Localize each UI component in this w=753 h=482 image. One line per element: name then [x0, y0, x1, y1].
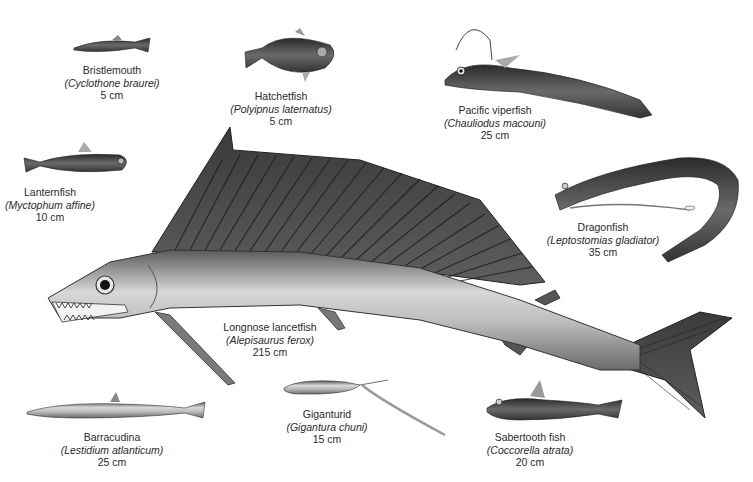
- common-name: Pacific viperfish: [444, 104, 546, 117]
- label-giganturid: Giganturid (Gigantura chuni) 15 cm: [286, 408, 367, 446]
- common-name: Giganturid: [286, 408, 367, 421]
- scientific-name: (Myctophum affine): [5, 199, 95, 212]
- common-name: Longnose lancetfish: [223, 321, 316, 334]
- bristlemouth-drawing: [74, 35, 150, 52]
- common-name: Hatchetfish: [230, 90, 332, 103]
- lanternfish-drawing: [24, 142, 127, 172]
- common-name: Dragonfish: [547, 221, 660, 234]
- common-name: Bristlemouth: [64, 64, 159, 77]
- size-label: 35 cm: [547, 246, 660, 259]
- label-dragonfish: Dragonfish (Leptostomias gladiator) 35 c…: [547, 221, 660, 259]
- size-label: 215 cm: [223, 346, 316, 359]
- scientific-name: (Chauliodus macouni): [444, 117, 546, 130]
- scientific-name: (Lestidium atlanticum): [61, 444, 164, 457]
- sabertooth-fish-drawing: [487, 380, 622, 420]
- size-label: 10 cm: [5, 211, 95, 224]
- common-name: Sabertooth fish: [487, 431, 573, 444]
- scientific-name: (Alepisaurus ferox): [223, 334, 316, 347]
- label-lanternfish: Lanternfish (Myctophum affine) 10 cm: [5, 186, 95, 224]
- label-pacific-viperfish: Pacific viperfish (Chauliodus macouni) 2…: [444, 104, 546, 142]
- size-label: 5 cm: [230, 115, 332, 128]
- label-sabertooth-fish: Sabertooth fish (Coccorella atrata) 20 c…: [487, 431, 573, 469]
- scientific-name: (Leptostomias gladiator): [547, 234, 660, 247]
- size-label: 25 cm: [61, 456, 164, 469]
- label-longnose-lancetfish: Longnose lancetfish (Alepisaurus ferox) …: [223, 321, 316, 359]
- size-label: 20 cm: [487, 456, 573, 469]
- scientific-name: (Gigantura chuni): [286, 421, 367, 434]
- scientific-name: (Polyipnus laternatus): [230, 103, 332, 116]
- label-hatchetfish: Hatchetfish (Polyipnus laternatus) 5 cm: [230, 90, 332, 128]
- scientific-name: (Cyclothone braurei): [64, 77, 159, 90]
- common-name: Barracudina: [61, 431, 164, 444]
- scientific-name: (Coccorella atrata): [487, 444, 573, 457]
- common-name: Lanternfish: [5, 186, 95, 199]
- size-label: 25 cm: [444, 129, 546, 142]
- barracudina-drawing: [27, 392, 205, 418]
- label-barracudina: Barracudina (Lestidium atlanticum) 25 cm: [61, 431, 164, 469]
- size-label: 15 cm: [286, 433, 367, 446]
- size-label: 5 cm: [64, 89, 159, 102]
- hatchetfish-drawing: [245, 28, 334, 82]
- label-bristlemouth: Bristlemouth (Cyclothone braurei) 5 cm: [64, 64, 159, 102]
